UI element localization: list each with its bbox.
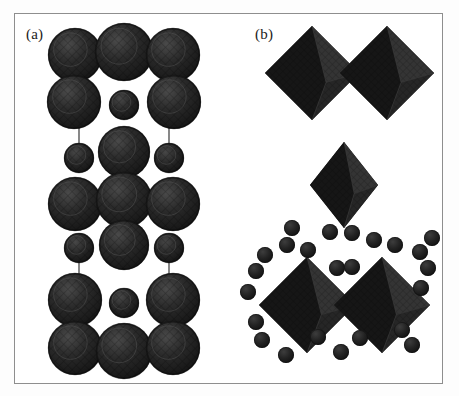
figure-root: (a) (b) (0, 0, 459, 396)
panel-label-b: (b) (255, 26, 273, 43)
panel-label-a: (a) (26, 26, 43, 43)
figure-frame (14, 13, 443, 384)
